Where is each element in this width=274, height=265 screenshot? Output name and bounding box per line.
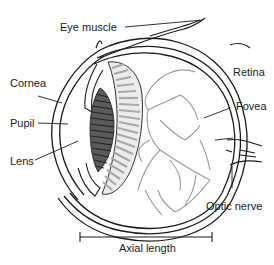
eye-muscle — [96, 18, 250, 58]
label-cornea: Cornea — [10, 77, 46, 89]
retinal-vessels — [138, 70, 210, 215]
label-retina: Retina — [233, 66, 265, 78]
eye-cross-section — [0, 0, 274, 265]
eye-diagram: Eye muscle Cornea Pupil Lens Retina Fove… — [0, 0, 274, 265]
label-eye-muscle: Eye muscle — [60, 21, 117, 33]
label-axial-length: Axial length — [119, 242, 176, 254]
label-pupil: Pupil — [10, 117, 34, 129]
fovea-mark — [226, 150, 232, 152]
label-optic-nerve: Optic nerve — [206, 200, 262, 212]
label-lens: Lens — [10, 155, 34, 167]
label-fovea: Fovea — [236, 100, 267, 112]
